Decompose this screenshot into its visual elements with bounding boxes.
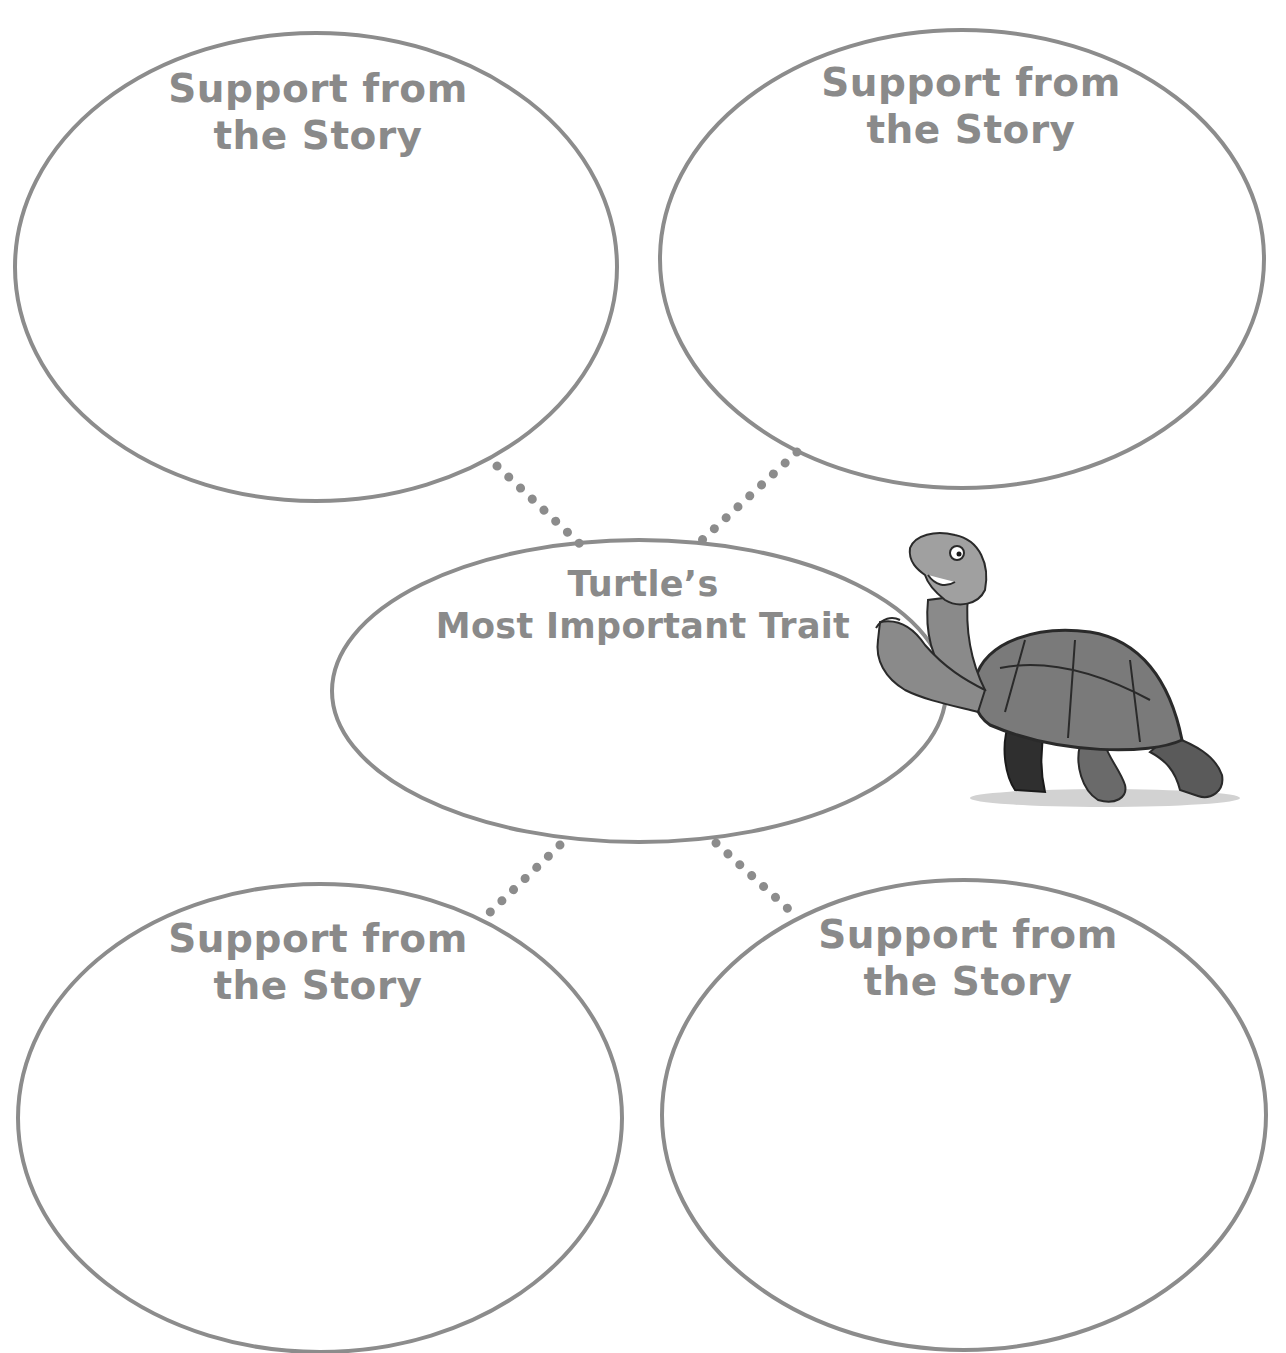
support-label-top-left: Support from the Story — [168, 66, 468, 160]
turtle-shell — [973, 630, 1182, 750]
turtle-illustration-icon — [876, 533, 1240, 807]
center-label-line2: Most Important Trait — [436, 605, 850, 647]
support-label-top-right: Support from the Story — [821, 60, 1121, 154]
turtle-head — [910, 533, 987, 604]
support-label-line2: the Story — [168, 963, 468, 1010]
support-label-bottom-right: Support from the Story — [818, 912, 1118, 1006]
connector-bottom-right — [716, 843, 797, 917]
connector-top-left — [497, 466, 580, 544]
diagram-canvas — [0, 0, 1286, 1353]
trait-web-diagram: Support from the Story Support from the … — [0, 0, 1286, 1353]
support-label-line2: the Story — [818, 959, 1118, 1006]
support-label-line1: Support from — [168, 916, 468, 963]
support-label-bottom-left: Support from the Story — [168, 916, 468, 1010]
support-label-line2: the Story — [168, 113, 468, 160]
center-label-line1: Turtle’s — [436, 563, 850, 605]
support-label-line1: Support from — [821, 60, 1121, 107]
support-label-line2: the Story — [821, 107, 1121, 154]
support-label-line1: Support from — [168, 66, 468, 113]
connector-bottom-left — [484, 845, 560, 918]
connector-lines — [484, 452, 797, 918]
support-label-line1: Support from — [818, 912, 1118, 959]
center-trait-label: Turtle’s Most Important Trait — [436, 563, 850, 647]
connector-top-right — [700, 452, 797, 542]
turtle-pupil — [957, 552, 962, 557]
